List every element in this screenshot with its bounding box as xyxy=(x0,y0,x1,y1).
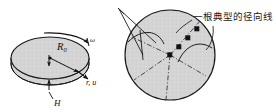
radial-node-1 xyxy=(176,44,181,49)
label-radial-coordinate: r, u xyxy=(86,79,96,87)
label-thickness-h: H xyxy=(54,99,61,108)
radial-node-2 xyxy=(185,35,190,40)
label-typical-radial-line: 一根典型的径向线 xyxy=(193,12,273,22)
label-radius-r0: R0 xyxy=(57,42,67,53)
figure-container: R0 ω r, u H 一根典型的径向线 xyxy=(0,0,276,112)
label-angular-velocity: ω xyxy=(90,37,95,44)
left-disk-group xyxy=(11,33,89,99)
thickness-leader-line xyxy=(49,92,53,99)
radial-node-3 xyxy=(194,26,199,31)
circle-center-point xyxy=(169,54,172,57)
label-radius-subscript: 0 xyxy=(63,46,66,53)
